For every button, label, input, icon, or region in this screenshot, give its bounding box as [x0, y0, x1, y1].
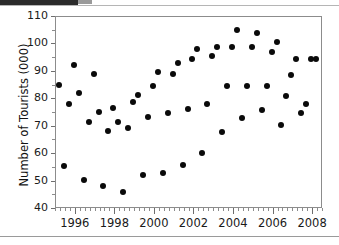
x-tick-minor	[263, 208, 264, 211]
x-tick-major	[233, 208, 234, 214]
y-tick-label: 70	[4, 120, 48, 131]
x-tick-minor	[322, 208, 323, 211]
top-artifact-bar-secondary	[78, 0, 92, 4]
x-tick-minor	[189, 208, 190, 211]
x-tick-label: 2004	[211, 217, 255, 229]
x-tick-minor	[169, 208, 170, 211]
x-tick-minor	[208, 208, 209, 211]
x-tick-minor	[60, 208, 61, 211]
x-tick-minor	[203, 208, 204, 211]
x-tick-minor	[90, 208, 91, 211]
x-tick-minor	[287, 208, 288, 211]
x-tick-minor	[139, 208, 140, 211]
plot-area-frame	[55, 16, 322, 208]
x-tick-label: 2000	[132, 217, 176, 229]
y-tick-label: 100	[4, 37, 48, 48]
x-tick-minor	[119, 208, 120, 211]
y-tick-label: 40	[4, 202, 48, 213]
x-tick-minor	[174, 208, 175, 211]
x-tick-minor	[95, 208, 96, 211]
x-tick-minor	[134, 208, 135, 211]
x-tick-minor	[144, 208, 145, 211]
x-tick-minor	[124, 208, 125, 211]
x-tick-major	[114, 208, 115, 214]
x-tick-minor	[228, 208, 229, 211]
top-divider-rule	[0, 5, 339, 6]
y-tick-label: 90	[4, 65, 48, 76]
x-tick-minor	[317, 208, 318, 211]
x-tick-minor	[238, 208, 239, 211]
x-tick-minor	[297, 208, 298, 211]
x-tick-minor	[282, 208, 283, 211]
x-tick-minor	[109, 208, 110, 211]
y-tick-label: 80	[4, 92, 48, 103]
x-tick-label: 1998	[92, 217, 136, 229]
y-axis-title: Number of Tourists (000)	[17, 35, 31, 195]
x-tick-minor	[213, 208, 214, 211]
x-tick-minor	[65, 208, 66, 211]
x-tick-major	[273, 208, 274, 214]
x-tick-label: 2006	[251, 217, 295, 229]
y-tick-label: 60	[4, 147, 48, 158]
bottom-divider-rule	[0, 236, 339, 237]
x-tick-minor	[278, 208, 279, 211]
x-tick-minor	[55, 208, 56, 211]
x-tick-minor	[292, 208, 293, 211]
x-tick-minor	[218, 208, 219, 211]
x-tick-minor	[80, 208, 81, 211]
x-tick-minor	[198, 208, 199, 211]
x-tick-minor	[302, 208, 303, 211]
x-tick-minor	[268, 208, 269, 211]
x-tick-minor	[100, 208, 101, 211]
x-tick-minor	[159, 208, 160, 211]
x-tick-minor	[149, 208, 150, 211]
y-tick-label: 110	[4, 10, 48, 21]
x-tick-minor	[258, 208, 259, 211]
x-tick-major	[75, 208, 76, 214]
x-tick-label: 2008	[290, 217, 334, 229]
x-tick-label: 2002	[171, 217, 215, 229]
x-tick-minor	[307, 208, 308, 211]
x-tick-minor	[104, 208, 105, 211]
x-tick-minor	[184, 208, 185, 211]
x-tick-minor	[248, 208, 249, 211]
x-tick-major	[154, 208, 155, 214]
x-tick-minor	[164, 208, 165, 211]
x-tick-major	[193, 208, 194, 214]
x-tick-label: 1996	[53, 217, 97, 229]
chart-screenshot: Number of Tourists (000) 110100908070605…	[0, 0, 339, 245]
x-tick-minor	[253, 208, 254, 211]
x-tick-minor	[179, 208, 180, 211]
x-tick-minor	[129, 208, 130, 211]
x-tick-minor	[223, 208, 224, 211]
x-tick-minor	[243, 208, 244, 211]
x-tick-minor	[85, 208, 86, 211]
x-tick-minor	[70, 208, 71, 211]
x-tick-major	[312, 208, 313, 214]
y-tick-label: 50	[4, 175, 48, 186]
